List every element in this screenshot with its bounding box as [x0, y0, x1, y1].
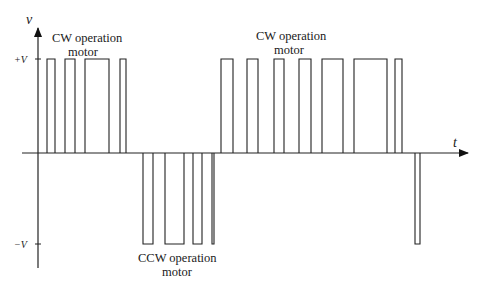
positive-pulse-9: [247, 59, 258, 153]
minus-v-label: −V: [14, 239, 29, 250]
positive-pulse-10: [274, 59, 284, 153]
negative-pulse-7: [212, 153, 214, 244]
annotation-cw-right-line1: CW operation: [256, 29, 327, 43]
annotation-ccw-line2: motor: [162, 265, 193, 279]
positive-pulse-11: [299, 59, 311, 153]
positive-pulse-13: [354, 59, 387, 153]
pulse-train: [47, 59, 420, 244]
negative-pulse-15: [415, 153, 420, 244]
positive-pulse-8: [221, 59, 233, 153]
annotation-cw-right-line2: motor: [274, 43, 305, 57]
pwm-waveform-diagram: v t +V −V CW operation motor CCW operati…: [0, 0, 479, 290]
y-axis-label: v: [26, 12, 33, 27]
negative-pulse-4: [143, 153, 153, 244]
annotation-cw-left-line1: CW operation: [52, 31, 123, 45]
positive-pulse-2: [85, 59, 109, 153]
x-axis-label: t: [453, 135, 458, 150]
annotation-cw-left-line2: motor: [68, 45, 99, 59]
positive-pulse-1: [65, 59, 75, 153]
positive-pulse-0: [47, 59, 55, 153]
annotation-ccw-line1: CCW operation: [138, 251, 217, 265]
negative-pulse-6: [193, 153, 202, 244]
positive-pulse-3: [120, 59, 126, 153]
negative-pulse-5: [165, 153, 184, 244]
positive-pulse-12: [322, 59, 343, 153]
positive-pulse-14: [395, 59, 402, 153]
plus-v-label: +V: [14, 54, 29, 65]
